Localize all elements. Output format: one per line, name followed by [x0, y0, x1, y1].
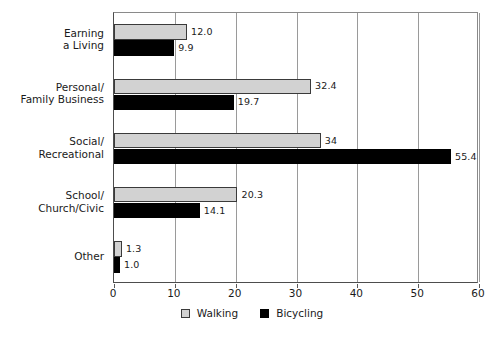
legend-label: Bicycling — [276, 307, 323, 319]
bar-walking-1 — [114, 79, 311, 95]
bar-value-label-walking-0: 12.0 — [191, 27, 213, 37]
legend-item-walking[interactable]: Walking — [181, 307, 238, 319]
category-label-0: Earninga Living — [0, 27, 104, 52]
bar-value-label-walking-4: 1.3 — [126, 244, 141, 254]
gridline-50 — [418, 13, 419, 282]
x-tick-label-10: 10 — [167, 287, 180, 299]
category-label-line: Recreational — [0, 148, 104, 161]
light-gray-square-icon — [181, 309, 190, 318]
x-tick-label-50: 50 — [410, 287, 423, 299]
gridline-40 — [357, 13, 358, 282]
bar-value-label-walking-2: 34 — [325, 136, 337, 146]
category-label-1: Personal/Family Business — [0, 81, 104, 106]
bar-chart: 12.09.932.419.73455.420.314.11.31.0 Earn… — [0, 0, 504, 339]
legend-item-bicycling[interactable]: Bicycling — [260, 307, 323, 319]
category-label-line: a Living — [0, 39, 104, 52]
bar-value-label-bicycling-0: 9.9 — [178, 43, 193, 53]
category-label-line: Personal/ — [0, 81, 104, 94]
bar-value-label-bicycling-1: 19.7 — [238, 97, 260, 107]
bar-value-label-bicycling-3: 14.1 — [204, 206, 226, 216]
legend-label: Walking — [197, 307, 238, 319]
category-label-4: Other — [0, 250, 104, 263]
bar-walking-0 — [114, 24, 187, 40]
x-tick-label-0: 0 — [110, 287, 117, 299]
category-label-line: School/ — [0, 189, 104, 202]
bar-value-label-bicycling-4: 1.0 — [124, 260, 139, 270]
gridline-60 — [479, 13, 480, 282]
bar-value-label-walking-1: 32.4 — [315, 81, 337, 91]
chart-legend: WalkingBicycling — [0, 307, 504, 319]
x-tick-label-20: 20 — [228, 287, 241, 299]
bar-bicycling-1 — [114, 95, 234, 111]
bar-value-label-bicycling-2: 55.4 — [455, 152, 477, 162]
bar-walking-2 — [114, 133, 321, 149]
category-label-line: Earning — [0, 27, 104, 40]
bar-bicycling-2 — [114, 149, 451, 165]
category-label-line: Family Business — [0, 93, 104, 106]
x-tick-label-40: 40 — [350, 287, 363, 299]
x-tick-label-30: 30 — [289, 287, 302, 299]
bar-bicycling-0 — [114, 40, 174, 56]
x-tick-label-60: 60 — [471, 287, 484, 299]
category-label-line: Church/Civic — [0, 202, 104, 215]
bar-walking-3 — [114, 187, 237, 203]
category-label-3: School/Church/Civic — [0, 189, 104, 214]
bar-bicycling-3 — [114, 203, 200, 219]
category-label-line: Social/ — [0, 135, 104, 148]
bar-walking-4 — [114, 241, 122, 257]
black-square-icon — [260, 309, 269, 318]
category-label-line: Other — [0, 250, 104, 263]
category-label-2: Social/Recreational — [0, 135, 104, 160]
plot-area: 12.09.932.419.73455.420.314.11.31.0 — [113, 12, 478, 283]
bar-value-label-walking-3: 20.3 — [241, 190, 263, 200]
bar-bicycling-4 — [114, 257, 120, 273]
